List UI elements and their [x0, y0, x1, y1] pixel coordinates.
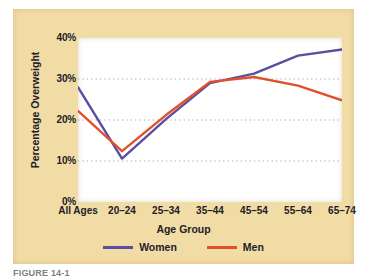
figure-root: Percentage Overweight 0%10%20%30%40% All… [0, 0, 367, 280]
chart-card: Percentage Overweight 0%10%20%30%40% All… [13, 9, 354, 264]
series-lines [78, 49, 342, 158]
x-axis-tick-label: 65–74 [312, 205, 367, 217]
y-axis-tick-label: 20% [30, 115, 76, 125]
series-line-women [78, 49, 342, 158]
x-axis-tick-labels: All Ages20–2425–3435–4445–5455–6465–74 [31, 205, 349, 219]
y-axis-tick-label: 10% [30, 156, 76, 166]
legend-swatch-men [207, 246, 237, 249]
legend-swatch-women [103, 246, 133, 249]
chart-plot-svg [78, 38, 342, 202]
legend-label-women: Women [139, 242, 177, 253]
x-axis-title: Age Group [13, 223, 354, 235]
y-axis-tick-label: 40% [30, 33, 76, 43]
figure-caption: FIGURE 14-1 [13, 268, 70, 278]
chart-legend: WomenMen [13, 242, 354, 253]
series-line-men [78, 77, 342, 151]
legend-label-men: Men [243, 242, 264, 253]
y-axis-tick-label: 30% [30, 74, 76, 84]
legend-item-women: Women [103, 242, 177, 253]
legend-item-men: Men [207, 242, 264, 253]
plot-area [78, 38, 342, 202]
